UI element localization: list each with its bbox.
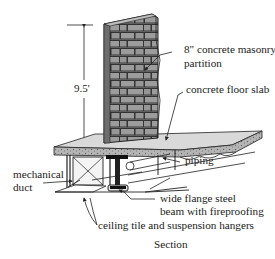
section-caption: Section <box>154 238 188 250</box>
height-dimension-label: 9.5' <box>74 82 90 94</box>
height-dimension: 9.5' <box>67 25 93 148</box>
partition-label-1: 8" concrete masonry <box>184 43 275 55</box>
beam-label-1: wide flange steel <box>160 192 236 204</box>
steel-beam <box>106 152 255 191</box>
piping-label: piping <box>185 154 214 166</box>
beam-label-2: beam with fireproofing <box>160 205 264 217</box>
section-diagram: 9.5' <box>0 0 275 259</box>
mechanical-duct <box>67 155 110 190</box>
duct-label-2: duct <box>13 181 33 193</box>
masonry-partition <box>104 14 160 143</box>
partition-label-2: partition <box>184 57 222 69</box>
ceiling-label: ceiling tile and suspension hangers <box>98 219 254 231</box>
slab-label: concrete floor slab <box>186 83 270 95</box>
duct-label-1: mechanical <box>13 168 64 180</box>
